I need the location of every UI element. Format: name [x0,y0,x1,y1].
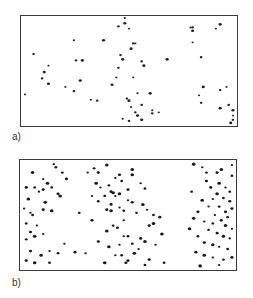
data-point [142,64,145,67]
data-point [33,261,37,264]
data-point [32,53,35,55]
data-point [126,259,129,262]
data-point [201,166,203,168]
data-point [128,28,130,30]
data-point [75,59,78,61]
data-point [231,109,234,112]
data-point [136,114,139,117]
data-point [27,198,31,201]
data-point [126,97,129,99]
data-point [122,210,125,212]
data-point [73,39,75,41]
data-point [149,92,152,95]
data-point [124,17,126,19]
data-point [42,188,45,191]
data-point [160,233,164,236]
data-point [124,261,127,264]
data-point [118,192,122,195]
data-point [42,178,44,180]
data-point [73,90,76,92]
data-point [130,106,132,108]
data-point [209,186,212,189]
data-point [132,42,135,44]
data-point [215,171,218,174]
data-point [197,235,200,237]
data-point [194,251,197,254]
data-point [229,237,231,239]
data-point [91,195,93,197]
data-point [112,224,115,226]
data-point [188,227,192,230]
data-point [105,164,109,167]
data-point [43,201,47,204]
data-point [41,77,44,79]
data-point [48,262,51,264]
dot-plot-a [21,16,237,126]
data-point [29,231,32,234]
data-point [120,180,123,182]
data-point [117,67,120,69]
data-point [133,252,137,255]
data-point [25,238,28,240]
data-point [42,233,44,235]
data-point [96,100,99,102]
data-point [105,208,108,211]
data-point [116,226,119,229]
data-point [224,224,228,227]
data-point [73,251,76,254]
data-point [114,177,116,179]
data-point [43,71,46,74]
data-point [200,56,203,58]
data-point [78,212,81,214]
data-point [47,65,49,67]
data-point [47,82,50,85]
dot-plot-b [20,160,236,270]
data-point [158,111,160,113]
data-point [224,186,226,188]
data-point [118,244,120,246]
data-point [231,175,234,177]
data-point [31,214,34,216]
data-point [198,94,200,96]
data-point [196,211,199,214]
data-point [231,164,233,166]
data-point [103,195,106,197]
data-point [97,240,100,243]
data-point [130,168,134,171]
data-point [151,109,153,111]
data-point [25,222,28,224]
data-point [205,171,208,173]
data-point [114,195,116,197]
data-point [140,104,143,106]
data-point [94,182,98,185]
data-point [192,163,196,166]
data-point [38,191,40,193]
data-point [57,252,60,254]
data-point [25,186,28,189]
data-point [215,28,217,30]
data-point [151,112,154,114]
data-point [141,203,145,206]
data-point [90,99,92,101]
data-point [64,86,66,88]
data-point [203,254,207,257]
data-point [97,200,100,202]
data-point [232,115,234,117]
data-point [203,241,206,244]
data-point [121,58,124,61]
data-point [212,256,214,258]
data-point [99,186,101,188]
data-point [25,259,28,262]
data-point [143,240,147,243]
data-point [63,243,65,245]
data-point [228,200,231,203]
data-point [225,86,227,88]
data-point [50,186,53,188]
data-point [123,22,126,25]
data-point [86,172,88,174]
data-point [36,225,38,227]
data-point [139,237,142,240]
data-point [215,192,219,195]
data-point [222,235,226,238]
data-point [140,60,143,62]
